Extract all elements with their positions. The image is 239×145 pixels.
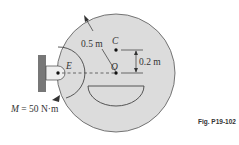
figure-caption: Fig. P19-102	[198, 118, 236, 126]
diagram-canvas: 0.5 m C O E 0.2 m M = 50 N·m Fig. P19-10…	[0, 0, 239, 145]
moment-label: M = 50 N·m	[10, 104, 59, 114]
point-o-label: O	[111, 62, 118, 72]
moment-arrowhead-icon	[52, 95, 60, 102]
offset-label: 0.2 m	[139, 57, 161, 67]
radius-label: 0.5 m	[81, 39, 103, 49]
point-c-dot	[114, 48, 117, 51]
moment-value: = 50 N·m	[19, 104, 59, 114]
point-c-label: C	[112, 36, 119, 46]
wall	[38, 55, 46, 92]
point-e-label: E	[65, 61, 72, 71]
pin-e	[56, 71, 59, 74]
